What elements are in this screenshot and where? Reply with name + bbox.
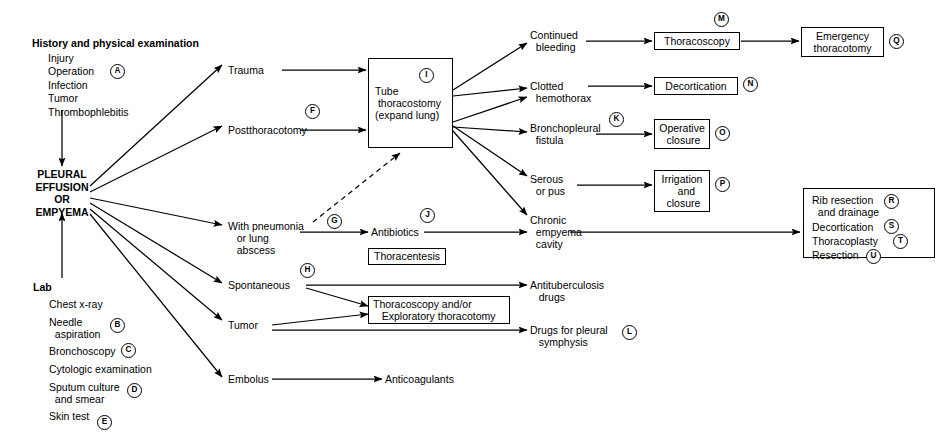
outcome-clotted-hemothorax: Clotted hemothorax bbox=[530, 80, 591, 104]
outcome-chronic-empyema-cavity: Chronic empyema cavity bbox=[530, 214, 582, 251]
outcome-bronchopleural-fistula: Bronchopleural fistula bbox=[530, 122, 601, 146]
cause-spontaneous: Spontaneous bbox=[228, 279, 290, 291]
cause-tumor: Tumor bbox=[228, 319, 258, 331]
medication-antituberculosis-drugs: Antituberculosis drugs bbox=[530, 279, 604, 303]
chronic-treatment-thoracoplasty: Thoracoplasty bbox=[812, 235, 878, 247]
lab-item-sputum-culture: Sputum culture and smear bbox=[49, 381, 120, 405]
lab-item-cytologic-examination: Cytologic examination bbox=[49, 363, 152, 375]
lab-header: Lab bbox=[33, 281, 52, 293]
hub-pleural-effusion-or-empyema: PLEURAL EFFUSION OR EMPYEMA bbox=[26, 168, 98, 218]
box-decortication-label: Decortication bbox=[659, 80, 733, 92]
lab-item-bronchoscopy: Bronchoscopy bbox=[49, 345, 116, 357]
marker-f: F bbox=[305, 104, 320, 119]
medication-antibiotics: Antibiotics bbox=[371, 226, 419, 238]
chronic-treatment-rib-resection: Rib resection and drainage bbox=[812, 194, 879, 218]
outcome-serous-or-pus: Serous or pus bbox=[530, 173, 565, 197]
marker-n: N bbox=[743, 77, 758, 92]
box-thoracoscopy[interactable]: Thoracoscopy bbox=[654, 32, 740, 50]
cause-with-pneumonia: With pneumonia or lung abscess bbox=[228, 220, 304, 257]
cause-embolus: Embolus bbox=[228, 373, 269, 385]
box-operative-closure-label: Operative closure bbox=[659, 122, 705, 146]
marker-g: G bbox=[327, 214, 342, 229]
marker-o: O bbox=[715, 126, 730, 141]
box-thoracoscopy-exploratory-label: Thoracoscopy and/or Exploratory thoracot… bbox=[373, 298, 505, 322]
outcome-continued-bleeding: Continued bleeding bbox=[530, 29, 578, 53]
flowchart-canvas: History and physical examination Injury … bbox=[0, 0, 938, 446]
marker-j: J bbox=[420, 208, 435, 223]
marker-k: K bbox=[609, 112, 624, 127]
lab-item-skin-test: Skin test bbox=[49, 410, 89, 422]
marker-p: P bbox=[715, 177, 730, 192]
marker-h: H bbox=[300, 263, 315, 278]
marker-a: A bbox=[110, 64, 125, 79]
marker-m: M bbox=[714, 12, 729, 27]
box-thoracoscopy-label: Thoracoscopy bbox=[659, 35, 735, 47]
flowchart-edges bbox=[0, 0, 938, 446]
box-operative-closure[interactable]: Operative closure bbox=[654, 119, 710, 149]
cause-trauma: Trauma bbox=[228, 64, 264, 76]
box-decortication[interactable]: Decortication bbox=[654, 77, 738, 95]
marker-i: I bbox=[419, 68, 434, 83]
marker-d: D bbox=[127, 383, 142, 398]
marker-r: R bbox=[884, 194, 899, 209]
box-thoracoscopy-exploratory[interactable]: Thoracoscopy and/or Exploratory thoracot… bbox=[368, 296, 510, 324]
box-thoracentesis[interactable]: Thoracentesis bbox=[368, 248, 446, 265]
marker-q: Q bbox=[889, 34, 904, 49]
marker-l: L bbox=[622, 325, 637, 340]
box-thoracentesis-label: Thoracentesis bbox=[373, 250, 441, 262]
marker-s: S bbox=[884, 219, 899, 234]
box-tube-thoracostomy-label: Tube thoracostomy (expand lung) bbox=[369, 85, 452, 122]
box-irrigation-and-closure[interactable]: Irrigation and closure bbox=[654, 170, 710, 212]
marker-b: B bbox=[110, 318, 125, 333]
lab-item-chest-xray: Chest x-ray bbox=[49, 298, 103, 310]
box-irrigation-and-closure-label: Irrigation and closure bbox=[659, 173, 705, 210]
marker-e: E bbox=[97, 415, 112, 430]
chronic-treatment-decortication: Decortication bbox=[812, 221, 873, 233]
history-items: Injury Operation Infection Tumor Thrombo… bbox=[48, 52, 129, 119]
cause-postthoracotomy: Postthoracotomy bbox=[228, 124, 307, 136]
box-emergency-thoracotomy-label: Emergency thoracotomy bbox=[806, 30, 879, 54]
marker-c: C bbox=[121, 343, 136, 358]
history-header: History and physical examination bbox=[32, 37, 199, 49]
marker-t: T bbox=[893, 234, 908, 249]
medication-pleural-symphysis: Drugs for pleural symphysis bbox=[530, 324, 608, 348]
box-emergency-thoracotomy[interactable]: Emergency thoracotomy bbox=[801, 27, 884, 57]
medication-anticoagulants: Anticoagulants bbox=[385, 373, 454, 385]
box-tube-thoracostomy[interactable]: Tube thoracostomy (expand lung) bbox=[368, 58, 453, 148]
marker-u: U bbox=[866, 249, 881, 264]
lab-item-needle-aspiration: Needle aspiration bbox=[49, 316, 100, 340]
chronic-treatment-resection: Resection bbox=[812, 249, 859, 261]
